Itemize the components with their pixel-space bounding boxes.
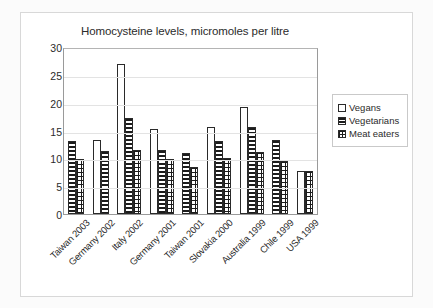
bar-groups xyxy=(64,49,317,214)
legend-swatch-vegetarians-icon xyxy=(338,117,346,125)
bar-group xyxy=(297,49,313,214)
y-tick-label: 5 xyxy=(30,182,62,192)
bar-vegans xyxy=(150,129,158,214)
bar-vegetarians xyxy=(182,153,190,214)
bar-vegetarians xyxy=(68,141,76,214)
legend: VegansVegetariansMeat eaters xyxy=(332,94,408,147)
bar-group xyxy=(207,49,231,214)
bar-vegans xyxy=(93,140,101,214)
y-tick-label: 0 xyxy=(30,210,62,220)
y-tick-label: 15 xyxy=(30,127,62,137)
bar-vegans xyxy=(207,127,215,214)
bar-vegans xyxy=(117,64,125,214)
gridline xyxy=(64,160,317,161)
bar-vegans xyxy=(297,171,305,214)
bar-group xyxy=(93,49,109,214)
y-tick-label: 30 xyxy=(30,43,62,53)
gridline xyxy=(64,105,317,106)
plot-area xyxy=(63,48,318,215)
bar-group xyxy=(68,49,84,214)
bar-group xyxy=(150,49,174,214)
legend-label: Meat eaters xyxy=(349,128,399,139)
chart-title: Homocysteine levels, micromoles per litr… xyxy=(50,25,320,37)
bar-meat xyxy=(190,167,198,214)
legend-item: Vegans xyxy=(338,102,403,113)
legend-label: Vegetarians xyxy=(349,115,399,126)
legend-item: Vegetarians xyxy=(338,115,403,126)
bar-group xyxy=(240,49,264,214)
gridline xyxy=(64,77,317,78)
bar-meat xyxy=(223,158,231,214)
bar-meat xyxy=(305,171,313,214)
chart-figure: Homocysteine levels, micromoles per litr… xyxy=(0,0,433,308)
legend-label: Vegans xyxy=(349,102,381,113)
gridline xyxy=(64,188,317,189)
gridline xyxy=(64,133,317,134)
bar-vegetarians xyxy=(215,141,223,214)
bar-group xyxy=(272,49,288,214)
y-axis: 051015202530 xyxy=(30,40,62,223)
bar-meat xyxy=(166,159,174,214)
legend-swatch-vegans-icon xyxy=(338,104,346,112)
bar-group xyxy=(117,49,141,214)
bar-vegetarians xyxy=(272,140,280,214)
bar-vegetarians xyxy=(248,127,256,214)
legend-item: Meat eaters xyxy=(338,128,403,139)
y-tick-label: 25 xyxy=(30,71,62,81)
y-tick-label: 20 xyxy=(30,99,62,109)
bar-group xyxy=(182,49,198,214)
legend-swatch-meat-icon xyxy=(338,130,346,138)
bar-meat xyxy=(76,159,84,214)
y-tick-label: 10 xyxy=(30,154,62,164)
